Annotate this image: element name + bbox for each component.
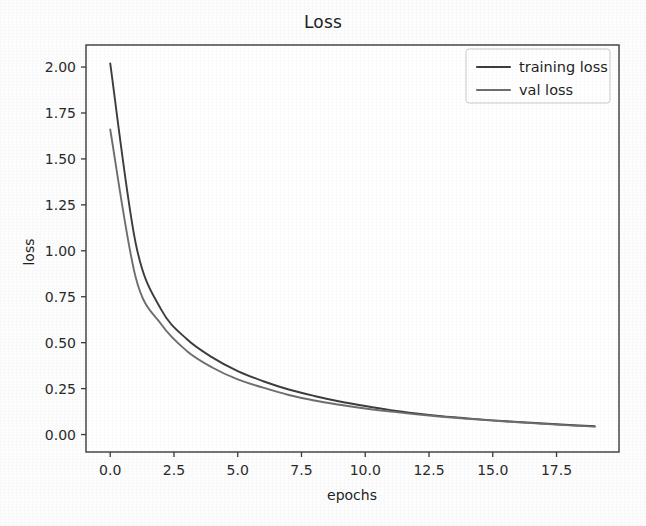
loss-line-chart: 0.000.250.500.751.001.251.501.752.00 0.0… [0,0,646,526]
y-tick-label: 2.00 [45,59,76,75]
legend: training lossval loss [466,49,610,103]
x-axis-ticks [110,452,556,457]
y-tick-label: 0.00 [45,427,76,443]
x-tick-label: 5.0 [227,462,249,478]
y-tick-label: 1.00 [45,243,76,259]
legend-label-val-loss: val loss [519,82,573,98]
x-axis-label: epochs [327,487,377,503]
y-axis-tick-labels: 0.000.250.500.751.001.251.501.752.00 [45,59,76,442]
y-tick-label: 0.25 [45,381,76,397]
y-axis-ticks [81,67,86,434]
plot-background [86,45,619,452]
y-tick-label: 1.50 [45,151,76,167]
figure-canvas: Loss 0.000.250.500.751.001.251.501.752.0… [0,0,646,526]
x-tick-label: 2.5 [163,462,185,478]
legend-label-training-loss: training loss [519,59,608,75]
y-tick-label: 1.75 [45,105,76,121]
y-tick-label: 1.25 [45,197,76,213]
x-tick-label: 0.0 [99,462,121,478]
x-tick-label: 10.0 [350,462,381,478]
x-tick-label: 17.5 [541,462,572,478]
x-tick-label: 12.5 [413,462,444,478]
y-tick-label: 0.50 [45,335,76,351]
y-axis-label: loss [21,238,37,265]
y-tick-label: 0.75 [45,289,76,305]
x-axis-tick-labels: 0.02.55.07.510.012.515.017.5 [99,462,572,478]
x-tick-label: 15.0 [477,462,508,478]
x-tick-label: 7.5 [290,462,312,478]
